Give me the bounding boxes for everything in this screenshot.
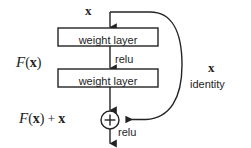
mathcal-f-glyph: F [16,54,25,70]
bold-x-addend: x [58,111,65,126]
residual-block-diagram: x weight layer weight layer relu relu F(… [0,0,251,148]
bold-x-glyph-output: x [33,111,40,126]
shortcut-label-identity: identity [190,79,225,90]
input-label-x: x [85,4,92,17]
mathcal-f-glyph-output: F [19,110,28,126]
weight-layer-1-label: weight layer [58,35,158,46]
output-expression-label: F(x) + x [19,111,65,126]
bold-x-glyph: x [30,55,37,70]
paren-close: ) [37,55,42,70]
weight-layer-2-label: weight layer [58,76,158,87]
relu-label-bottom: relu [118,127,136,138]
residual-function-label: F(x) [16,55,42,70]
plus-glyph-output: + [48,111,55,126]
shortcut-label-x: x [208,61,215,74]
relu-label-middle: relu [115,54,133,65]
